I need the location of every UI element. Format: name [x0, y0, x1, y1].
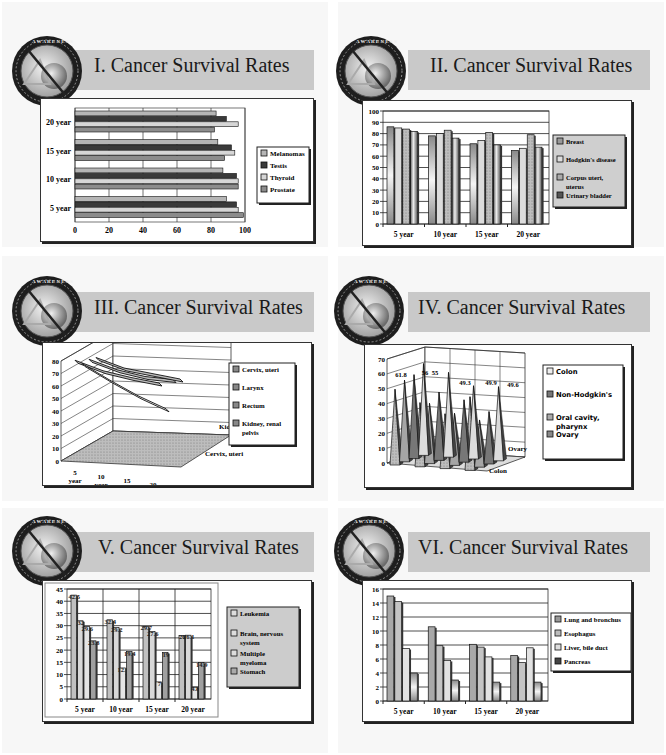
category-label: 10 year — [433, 707, 457, 716]
legend-swatch — [233, 402, 239, 408]
legend-swatch — [557, 174, 563, 180]
bar — [534, 682, 541, 701]
data-label: 27.6 — [147, 630, 159, 637]
seal-icon — [332, 514, 406, 588]
y-tick-label: 5 — [60, 683, 64, 691]
data-label: 49.9 — [485, 379, 497, 386]
legend-label: uterus — [566, 183, 584, 190]
y-tick-label: 10 — [52, 445, 60, 453]
legend-swatch — [233, 366, 239, 372]
bar — [428, 627, 435, 701]
data-label: 23.8 — [88, 639, 100, 646]
bar — [186, 635, 192, 699]
y-tick-label: 60 — [52, 383, 60, 391]
depth-label: Colon — [489, 467, 507, 475]
chart-5: 0510152025303540455 year42.53229.623.810… — [42, 580, 312, 722]
bar — [411, 131, 418, 224]
bar — [75, 127, 214, 132]
category-label: 5 year — [75, 705, 95, 714]
legend-label: Non-Hodgkin's — [556, 391, 612, 399]
y-tick-label: 20 — [378, 430, 386, 438]
y-tick-label: 10 — [372, 209, 380, 217]
legend-swatch — [261, 150, 267, 156]
legend-swatch — [231, 630, 237, 636]
bar — [75, 168, 223, 173]
category-label: 15 year — [46, 147, 72, 156]
legend-swatch — [233, 420, 239, 426]
legend-label: Liver, bile duct — [564, 644, 608, 651]
legend-label: Lung and bronchus — [564, 616, 621, 623]
legend-swatch — [555, 630, 561, 636]
data-label: 19.4 — [124, 650, 136, 657]
bar — [485, 657, 492, 701]
legend-swatch — [557, 138, 563, 144]
depth-label: Ovary — [508, 445, 528, 453]
y-tick-label: 45 — [56, 586, 64, 594]
y-tick-label: 80 — [372, 130, 380, 138]
y-tick-label: 80 — [52, 358, 60, 366]
y-tick-label: 50 — [52, 395, 60, 403]
y-tick-label: 2 — [376, 684, 380, 692]
bar — [519, 663, 526, 702]
category-label: 15 year — [474, 707, 498, 716]
slide-1: I. Cancer Survival Rates 0204060801005 y… — [2, 2, 328, 247]
legend-label: Esophagus — [564, 630, 596, 637]
bar — [75, 207, 238, 212]
bar — [84, 627, 90, 699]
y-tick-label: 0 — [56, 458, 60, 466]
legend-swatch — [557, 192, 563, 198]
x-tick-label: 0 — [73, 226, 77, 235]
bar — [493, 682, 500, 701]
y-tick-label: 10 — [378, 445, 386, 453]
data-label: 29.2 — [111, 626, 122, 633]
horizontal-bar-chart: 0204060801005 year10 year15 year20 yearM… — [41, 99, 313, 241]
bar — [91, 641, 97, 699]
grouped-bar-chart: 02468101214165 year10 year15 year20 year… — [363, 581, 631, 721]
legend — [227, 607, 299, 687]
category-label: 15 year — [145, 705, 169, 714]
category-label: 5 year — [394, 707, 414, 716]
legend-label: Brain, nervous — [240, 630, 283, 637]
bar — [436, 646, 443, 701]
bar — [470, 144, 477, 224]
data-label: 49.3 — [459, 379, 471, 386]
y-tick-label: 20 — [52, 433, 60, 441]
y-tick-label: 100 — [369, 108, 380, 116]
data-label: 55 — [432, 369, 439, 376]
slide-4: IV. Cancer Survival Rates 01020304050607… — [338, 256, 664, 501]
y-tick-label: 6 — [376, 656, 380, 664]
seal-icon — [10, 274, 84, 348]
grouped-bar-chart: 01020304050607080901005 year10 year15 ye… — [363, 101, 631, 245]
bar — [395, 602, 402, 701]
legend-swatch — [547, 368, 553, 374]
data-label: 56 — [422, 369, 429, 376]
legend-label: Oral cavity, — [556, 414, 600, 422]
bar — [511, 656, 518, 702]
bar — [527, 135, 534, 224]
legend-label: Urinary bladder — [566, 192, 612, 199]
category-label: year — [68, 477, 81, 485]
category-label: 5 — [73, 469, 77, 477]
legend-swatch — [555, 644, 561, 650]
legend-label: Leukemia — [240, 610, 270, 617]
seal-icon — [334, 34, 408, 108]
bar — [179, 635, 185, 699]
data-label: 19 — [163, 651, 170, 658]
bar — [395, 128, 402, 224]
bar — [75, 156, 225, 161]
y-tick-label: 60 — [372, 153, 380, 161]
bar — [452, 680, 459, 701]
category-label: 10 year — [46, 175, 72, 184]
legend-swatch — [231, 668, 237, 674]
legend-swatch — [231, 650, 237, 656]
y-tick-label: 30 — [378, 415, 386, 423]
y-tick-label: 20 — [56, 647, 64, 655]
x-tick-label: 60 — [173, 226, 181, 235]
3d-line-chart: 010203040506070805year10year15year20year… — [43, 343, 311, 485]
grouped-bar-chart: 0510152025303540455 year42.53229.623.810… — [43, 581, 311, 721]
category-label: 10 year — [109, 705, 133, 714]
data-label: 14.9 — [196, 661, 208, 668]
chart-6: 02468101214165 year10 year15 year20 year… — [362, 580, 632, 722]
legend-swatch — [233, 384, 239, 390]
category-label: 20 year — [516, 707, 540, 716]
